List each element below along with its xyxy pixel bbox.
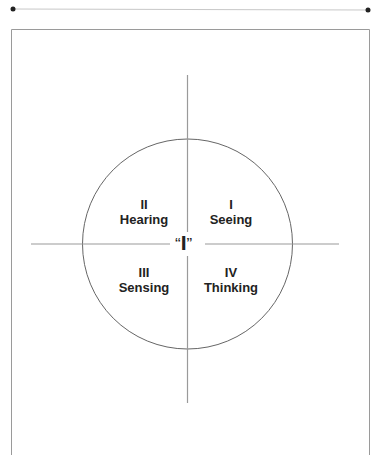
quadrant-iv-label: Thinking (186, 280, 276, 295)
diagram-canvas (0, 0, 377, 455)
top-rule-line (13, 9, 368, 10)
rule-endpoint-right (366, 8, 371, 13)
close-quote: ” (187, 235, 193, 254)
quadrant-i-numeral: I (186, 197, 276, 212)
quadrant-iv-numeral: IV (186, 265, 276, 280)
quadrant-iii-label: Sensing (99, 280, 189, 295)
quadrant-ii: II Hearing (99, 197, 189, 227)
rule-endpoint-left (11, 7, 16, 12)
center-self-label: “I” (172, 234, 195, 254)
quadrant-i: I Seeing (186, 197, 276, 227)
quadrant-iii: III Sensing (99, 265, 189, 295)
quadrant-iv: IV Thinking (186, 265, 276, 295)
quadrant-i-label: Seeing (186, 212, 276, 227)
quadrant-iii-numeral: III (99, 265, 189, 280)
quadrant-ii-label: Hearing (99, 212, 189, 227)
quadrant-ii-numeral: II (99, 197, 189, 212)
